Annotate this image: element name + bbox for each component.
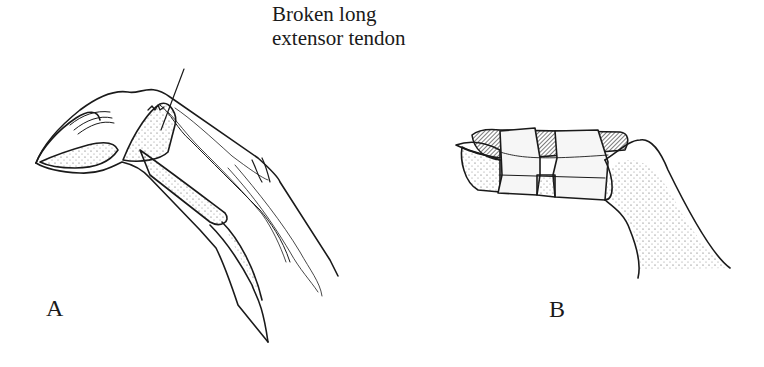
panel-b-label: B (549, 296, 565, 323)
panel-b-splint-drawing (456, 128, 730, 278)
panel-a-finger-drawing (36, 69, 338, 342)
figure-illustration (0, 0, 764, 367)
panel-a-label: A (46, 295, 63, 322)
